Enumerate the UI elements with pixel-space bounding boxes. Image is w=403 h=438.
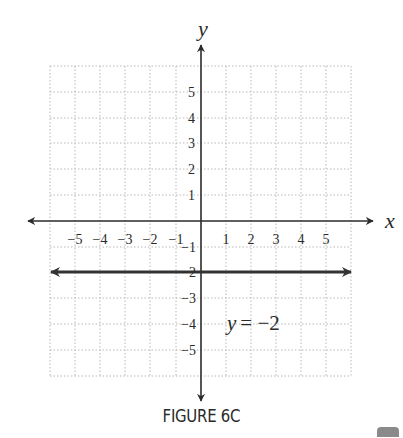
x-tick-label: 4 <box>298 232 305 247</box>
x-tick-labels: −5 −4 −3 −2 −1 1 2 3 4 5 <box>68 232 330 247</box>
x-tick-label: 2 <box>248 232 255 247</box>
x-tick-label: 5 <box>323 232 330 247</box>
equation-rest: = −2 <box>240 311 279 335</box>
x-tick-label: −3 <box>118 232 133 247</box>
x-axis-label: x <box>384 208 395 233</box>
y-tick-label: −1 <box>181 240 196 255</box>
figure-caption: FIGURE 6C <box>24 406 379 426</box>
y-tick-label: −5 <box>181 343 196 358</box>
x-tick-label: −2 <box>143 232 158 247</box>
y-tick-label: 1 <box>188 188 195 203</box>
equation-label: y= −2 <box>225 311 280 335</box>
y-tick-label: −2 <box>181 265 196 280</box>
y-tick-label: 4 <box>188 111 195 126</box>
y-tick-label: 2 <box>188 162 195 177</box>
x-tick-label: 1 <box>223 232 230 247</box>
y-tick-label: 5 <box>188 85 195 100</box>
x-tick-label: −5 <box>68 232 83 247</box>
y-tick-label: 3 <box>188 136 195 151</box>
y-tick-label: −3 <box>181 291 196 306</box>
x-tick-label: 3 <box>273 232 280 247</box>
y-tick-label: −4 <box>181 317 196 332</box>
y-axis-label: y <box>196 16 208 41</box>
corner-tab <box>377 427 399 437</box>
x-tick-label: −4 <box>93 232 108 247</box>
